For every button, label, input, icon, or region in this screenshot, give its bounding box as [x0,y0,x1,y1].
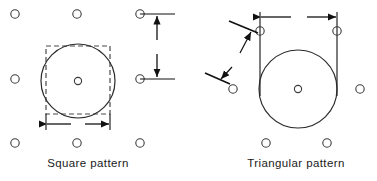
square-s-dimension [140,14,175,79]
triangular-pattern-panel: Triangular pattern [205,12,364,169]
tube-hole [73,10,81,18]
square-tube-circle [41,44,115,118]
triangular-pattern-caption: Triangular pattern [247,157,345,169]
tick-line-upper [229,21,258,33]
tube-hole [356,85,364,93]
square-d-dimension [46,114,110,130]
leader-line-s-lower [221,67,232,79]
tube-hole [11,10,19,18]
tri-s-dimension [205,21,258,84]
tube-hole [136,139,144,147]
square-pattern-caption: Square pattern [47,157,129,169]
tube-hole [229,85,237,93]
figure-canvas: Square pattern [0,0,377,181]
tube-hole [11,75,19,83]
tube-hole [73,139,81,147]
leader-line-s-upper [240,32,251,53]
triangular-hole-grid [229,27,364,147]
tube-hole [323,139,331,147]
square-hole-grid [11,10,144,147]
square-pattern-panel: Square pattern [11,10,175,169]
tube-hole-center [74,77,81,84]
tube-pattern-figure: Square pattern [0,0,377,181]
tube-hole [262,139,270,147]
tube-hole [11,139,19,147]
triangular-tube-circle [259,50,337,128]
tick-line-lower [205,73,230,84]
square-pitch-cell [46,46,110,114]
tube-hole-center [294,85,301,92]
